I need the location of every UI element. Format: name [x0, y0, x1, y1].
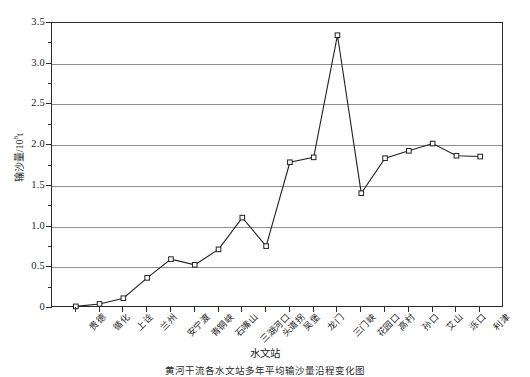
x-axis-tick	[384, 307, 385, 312]
x-axis-tick-label: 安宁渡	[186, 313, 211, 338]
y-axis-tick-label: 2.5	[0, 98, 45, 109]
data-point-marker	[430, 141, 435, 146]
data-point-marker	[311, 155, 316, 160]
x-axis-tick	[455, 307, 456, 312]
data-point-marker	[288, 160, 293, 165]
x-axis-tick-label: 青铜峡	[210, 313, 235, 338]
data-point-marker	[407, 149, 412, 154]
x-axis-tick-label: 循化	[112, 313, 131, 332]
y-axis-tick-label: 0	[0, 302, 45, 313]
data-point-marker	[240, 215, 245, 220]
y-axis-tick-label: 3.0	[0, 58, 45, 69]
x-axis-tick-label: 龙门	[326, 313, 345, 332]
x-axis-tick	[122, 307, 123, 312]
x-axis-tick-label: 上诠	[136, 313, 155, 332]
x-axis-tick	[360, 307, 361, 312]
x-axis-tick	[194, 307, 195, 312]
data-point-marker	[359, 191, 364, 196]
x-axis-tick-label: 石嘴山	[233, 313, 258, 338]
data-point-marker	[335, 33, 340, 38]
data-point-marker	[97, 302, 102, 307]
series-markers	[73, 33, 482, 309]
data-point-marker	[478, 154, 483, 159]
x-axis-tick-label: 吴堡	[302, 313, 321, 332]
plot-area	[51, 22, 503, 307]
x-axis-tick-label: 泺口	[469, 313, 488, 332]
series-line-sediment	[76, 35, 480, 306]
x-axis-tick	[336, 307, 337, 312]
x-axis-tick-label: 三门峡	[352, 313, 377, 338]
y-axis-tick-label: 3.5	[0, 17, 45, 28]
y-axis-title-unit: t	[14, 133, 25, 136]
x-axis-tick-label: 孙口	[421, 313, 440, 332]
data-series-layer	[52, 23, 504, 308]
figure-caption: 黄河干流各水文站多年平均输沙量沿程变化图	[0, 363, 530, 377]
x-axis-tick	[241, 307, 242, 312]
data-point-marker	[192, 263, 197, 268]
y-axis-title: 输沙量/108t	[10, 103, 25, 213]
y-axis-tick-label: 1.5	[0, 180, 45, 191]
x-axis-tick	[75, 307, 76, 312]
x-axis-tick-label: 高村	[397, 313, 416, 332]
x-axis-title: 水文站	[0, 345, 530, 360]
data-point-marker	[454, 153, 459, 158]
y-axis-tick-label: 1.0	[0, 221, 45, 232]
x-axis-tick	[289, 307, 290, 312]
data-point-marker	[264, 244, 269, 249]
x-axis-tick-label: 艾山	[445, 313, 464, 332]
x-axis-tick	[218, 307, 219, 312]
data-point-marker	[169, 257, 174, 262]
data-point-marker	[216, 247, 221, 252]
y-axis-tick-label: 0.5	[0, 261, 45, 272]
x-axis-tick-label: 利津	[492, 313, 511, 332]
x-axis-tick	[265, 307, 266, 312]
data-point-marker	[121, 296, 126, 301]
y-axis-tick-label: 2.0	[0, 139, 45, 150]
data-point-marker	[145, 276, 150, 281]
data-point-marker	[383, 156, 388, 161]
x-axis-tick-label: 贵德	[88, 313, 107, 332]
x-axis-tick-label: 兰州	[159, 313, 178, 332]
